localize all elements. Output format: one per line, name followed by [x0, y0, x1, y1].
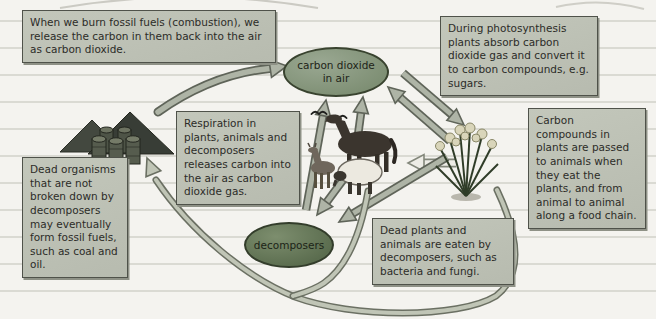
respiration-box: Respiration in plants, animals and decom…: [176, 111, 300, 205]
plant-icon: [432, 118, 504, 202]
photosynthesis-box: During photosynthesis plants absorb carb…: [440, 16, 598, 96]
carbon-dioxide-label: carbon dioxide in air: [293, 59, 379, 84]
decomposition-box: Dead plants and animals are eaten by dec…: [372, 218, 514, 285]
fossil-fuel-formation-box: Dead organisms that are not broken down …: [22, 157, 128, 278]
carbon-dioxide-node: carbon dioxide in air: [283, 47, 389, 97]
decomposers-node: decomposers: [244, 222, 334, 268]
carbon-cycle-diagram: When we burn fossil fuels (combustion), …: [0, 0, 656, 319]
flowers: [436, 123, 497, 151]
goat-icon: [308, 143, 335, 189]
combustion-box: When we burn fossil fuels (combustion), …: [22, 10, 276, 63]
page-top-marks: [60, 0, 644, 9]
animals-icon: [303, 110, 415, 196]
decomposers-label: decomposers: [254, 239, 324, 252]
food-chain-box: Carbon compounds in plants are passed to…: [528, 108, 646, 229]
combustion-arrow: [158, 60, 287, 112]
sheep-icon: [334, 159, 383, 195]
